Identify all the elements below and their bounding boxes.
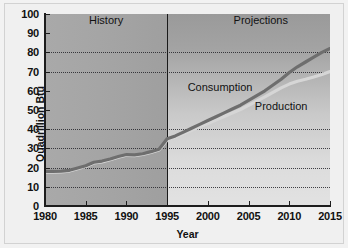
y-tick-label-80: 80: [27, 46, 39, 58]
y-tick-label-50: 50: [27, 104, 39, 116]
x-tick-label-1985: 1985: [74, 210, 98, 222]
chart-figure: Quadrillion Btu Year 0102030405060708090…: [0, 0, 348, 248]
annotation-history: History: [89, 14, 123, 26]
annotation-production: Production: [255, 100, 308, 112]
annotation-consumption: Consumption: [188, 81, 253, 93]
x-tick-label-2005: 2005: [237, 210, 261, 222]
x-axis-title: Year: [45, 228, 330, 240]
x-axis-line: [44, 205, 331, 207]
y-tick-label-90: 90: [27, 27, 39, 39]
x-tick-label-1980: 1980: [33, 210, 57, 222]
x-tick-label-1995: 1995: [155, 210, 179, 222]
plot-area: 0102030405060708090100 19801985199019952…: [45, 14, 330, 206]
y-tick-label-10: 10: [27, 181, 39, 193]
y-tick-label-20: 20: [27, 162, 39, 174]
y-tick-label-30: 30: [27, 142, 39, 154]
x-tick-label-2000: 2000: [196, 210, 220, 222]
y-tick-label-40: 40: [27, 123, 39, 135]
x-tick-label-2015: 2015: [318, 210, 342, 222]
y-tick-label-70: 70: [27, 66, 39, 78]
y-axis-line: [44, 13, 46, 207]
x-tick-label-2010: 2010: [277, 210, 301, 222]
y-tick-label-60: 60: [27, 85, 39, 97]
y-tick-label-100: 100: [21, 8, 39, 20]
annotation-projections: Projections: [234, 14, 288, 26]
x-tick-label-1990: 1990: [115, 210, 139, 222]
